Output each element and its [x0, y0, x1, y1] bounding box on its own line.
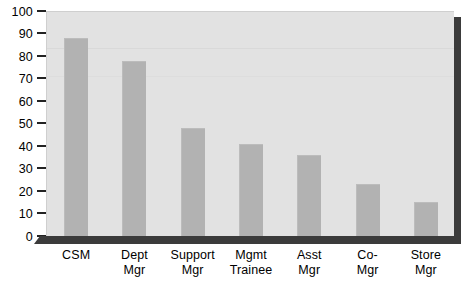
y-axis-tick-label: 80 [19, 51, 33, 63]
bar [64, 38, 88, 236]
y-axis-tick-label: 10 [19, 208, 33, 220]
y-axis-tick-mark [37, 55, 46, 57]
y-axis-tick-label: 30 [19, 163, 33, 175]
bar-chart: 0102030405060708090100 CSMDeptMgrSupport… [0, 0, 472, 291]
bar [356, 184, 380, 236]
x-axis-category-label: AsstMgr [280, 248, 338, 278]
x-axis-label-line-1: Support [170, 248, 214, 262]
y-axis-tick: 80 [19, 50, 46, 62]
y-axis-tick: 60 [19, 95, 46, 107]
y-axis-tick-mark [37, 77, 46, 79]
x-axis-label-line-2: Mgr [397, 263, 455, 278]
x-axis-label-line-1: Store [411, 248, 441, 262]
plot-frame [46, 11, 461, 243]
x-axis-category-label: Co-Mgr [338, 248, 396, 278]
axis-baseline [40, 236, 461, 244]
y-axis-tick-mark [37, 10, 46, 12]
bar [414, 202, 438, 236]
x-axis-label-line-2: Trainee [222, 263, 280, 278]
x-axis-label-line-1: Dept [121, 248, 148, 262]
bar [181, 128, 205, 236]
x-axis-category-label: CSM [47, 248, 105, 263]
x-axis-category-label: MgmtTrainee [222, 248, 280, 278]
bar [122, 61, 146, 237]
y-axis-tick: 50 [19, 118, 46, 130]
y-axis-tick-label: 70 [19, 73, 33, 85]
bar [239, 144, 263, 236]
y-axis-tick-label: 0 [26, 231, 33, 243]
y-axis-tick-mark [37, 167, 46, 169]
y-axis-tick-mark [37, 100, 46, 102]
x-axis-label-line-2: Mgr [338, 263, 396, 278]
x-axis-label-line-1: CSM [62, 248, 90, 262]
y-axis-tick-label: 20 [19, 186, 33, 198]
x-axis: CSMDeptMgrSupportMgrMgmtTraineeAsstMgrCo… [47, 248, 455, 291]
frame-shadow-right [454, 17, 461, 243]
y-axis-tick-mark [37, 32, 46, 34]
y-axis-tick: 100 [12, 5, 46, 17]
y-axis-tick: 70 [19, 73, 46, 85]
y-axis-tick-mark [37, 190, 46, 192]
x-axis-label-line-1: Asst [297, 248, 322, 262]
y-axis-tick: 40 [19, 140, 46, 152]
x-axis-label-line-1: Mgmt [235, 248, 267, 262]
scan-artifact-line [47, 48, 454, 49]
bar [297, 155, 321, 236]
x-axis-category-label: DeptMgr [105, 248, 163, 278]
scan-artifact-line [47, 76, 454, 77]
x-axis-category-label: SupportMgr [164, 248, 222, 278]
x-axis-label-line-2: Mgr [280, 263, 338, 278]
y-axis-tick-label: 60 [19, 96, 33, 108]
plot-area [46, 11, 454, 236]
x-axis-label-line-2: Mgr [105, 263, 163, 278]
y-axis-tick-mark [37, 122, 46, 124]
x-axis-category-label: StoreMgr [397, 248, 455, 278]
y-axis-tick-label: 40 [19, 141, 33, 153]
y-axis-tick: 20 [19, 185, 46, 197]
x-axis-label-line-2: Mgr [164, 263, 222, 278]
x-axis-label-line-1: Co- [357, 248, 377, 262]
y-axis-tick: 90 [19, 28, 46, 40]
y-axis-tick-label: 90 [19, 28, 33, 40]
y-axis-tick: 30 [19, 163, 46, 175]
y-axis-tick-label: 100 [12, 6, 33, 18]
y-axis-tick-label: 50 [19, 118, 33, 130]
y-axis-tick: 10 [19, 208, 46, 220]
y-axis-tick-mark [37, 212, 46, 214]
y-axis-tick-mark [37, 145, 46, 147]
y-axis: 0102030405060708090100 [0, 11, 46, 243]
